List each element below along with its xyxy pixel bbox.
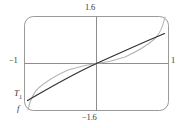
- x-min-label: −1: [9, 56, 18, 65]
- y-max-label: 1.6: [85, 3, 95, 12]
- x-max-label: 1: [171, 56, 175, 65]
- taylor-approximation-figure: [0, 0, 185, 128]
- curve-label-t1-subscript: 1: [19, 94, 22, 100]
- y-min-label: −1.6: [82, 113, 97, 122]
- curve-label-t1: T1: [14, 89, 22, 100]
- curve-label-f: f: [17, 104, 20, 113]
